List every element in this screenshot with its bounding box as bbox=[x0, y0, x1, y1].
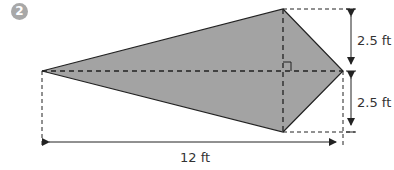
width-label: 12 ft bbox=[180, 150, 210, 165]
kite-diagram: 2.5 ft 2.5 ft 12 ft bbox=[0, 0, 394, 170]
bottom-height-label: 2.5 ft bbox=[357, 95, 391, 110]
top-height-label: 2.5 ft bbox=[357, 33, 391, 48]
